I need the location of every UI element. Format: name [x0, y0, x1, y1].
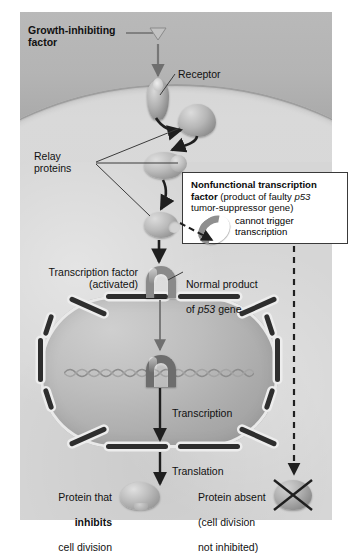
arrow-relay2-to-relay3	[161, 180, 166, 209]
arrow-relay1-to-relay2	[172, 136, 197, 150]
leader-receptor	[160, 74, 175, 95]
protein-absent-line3: not inhibited)	[198, 541, 258, 553]
leader-relay-lower	[96, 164, 150, 216]
growth-factor-triangle-icon	[150, 28, 166, 40]
arrow-relay3-to-callout-dashed	[180, 223, 212, 240]
protein-inhibits-line3: cell division	[58, 541, 112, 553]
leader-relay-upper	[96, 128, 180, 162]
leader-normal-product	[168, 272, 183, 280]
